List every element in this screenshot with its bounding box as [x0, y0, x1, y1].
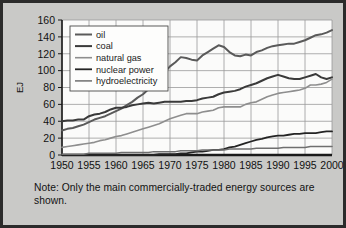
- svg-text:1975: 1975: [185, 159, 209, 171]
- svg-text:1990: 1990: [266, 159, 290, 171]
- y-axis-title: EJ: [14, 82, 25, 93]
- svg-text:hydroelectricity: hydroelectricity: [96, 76, 158, 86]
- svg-text:1965: 1965: [131, 159, 155, 171]
- svg-text:1995: 1995: [293, 159, 317, 171]
- svg-text:80: 80: [43, 81, 55, 93]
- chart-area: 020406080100120140160 195019551960196519…: [3, 7, 343, 173]
- svg-text:natural gas: natural gas: [96, 53, 142, 63]
- svg-text:20: 20: [43, 132, 55, 144]
- svg-text:60: 60: [43, 98, 55, 110]
- x-axis-tick-labels: 1950195519601965197019751980198519901995…: [50, 159, 343, 171]
- energy-sources-line-chart: 020406080100120140160 195019551960196519…: [3, 7, 343, 173]
- svg-text:nuclear power: nuclear power: [96, 65, 154, 75]
- svg-text:100: 100: [37, 64, 55, 76]
- y-axis-tick-labels: 020406080100120140160: [37, 14, 62, 161]
- chart-note: Note: Only the main commercially-traded …: [34, 181, 324, 207]
- svg-text:120: 120: [37, 48, 55, 60]
- svg-text:1960: 1960: [104, 159, 128, 171]
- svg-text:1955: 1955: [77, 159, 101, 171]
- svg-text:2000: 2000: [320, 159, 343, 171]
- svg-text:EJ: EJ: [14, 82, 25, 93]
- svg-text:1970: 1970: [158, 159, 182, 171]
- svg-text:oil: oil: [96, 30, 105, 40]
- svg-text:1980: 1980: [212, 159, 236, 171]
- svg-text:1950: 1950: [50, 159, 74, 171]
- figure-panel: 020406080100120140160 195019551960196519…: [0, 0, 346, 228]
- svg-text:140: 140: [37, 31, 55, 43]
- svg-text:1985: 1985: [239, 159, 263, 171]
- svg-text:40: 40: [43, 115, 55, 127]
- svg-text:coal: coal: [96, 41, 113, 51]
- chart-legend: oilcoalnatural gasnuclear powerhydroelec…: [70, 26, 168, 91]
- svg-text:160: 160: [37, 14, 55, 26]
